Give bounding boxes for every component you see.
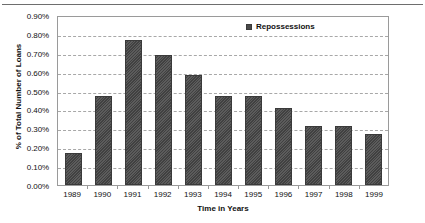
bar (335, 126, 352, 185)
x-axis-tick-label: 1995 (238, 190, 268, 202)
bar-slot (298, 17, 328, 185)
y-axis-tick-label: 0.80% (27, 30, 49, 39)
legend-swatch-icon (246, 24, 252, 30)
y-axis-tick-label: 0.00% (27, 182, 49, 191)
x-axis-tick-label: 1990 (87, 190, 117, 202)
bar-slot (358, 17, 388, 185)
repossessions-bar-chart: 0.90%0.80%0.70%0.60%0.50%0.40%0.30%0.20%… (0, 0, 425, 223)
bar (365, 134, 382, 185)
y-axis-tick-label: 0.70% (27, 49, 49, 58)
bar (65, 153, 82, 185)
y-axis-tick-label: 0.50% (27, 87, 49, 96)
x-axis-tick-label: 1992 (148, 190, 178, 202)
y-axis-tick-label: 0.10% (27, 163, 49, 172)
y-axis-tick-label: 0.30% (27, 125, 49, 134)
bar (95, 96, 112, 185)
y-axis-tick-label: 0.90% (27, 12, 49, 21)
x-axis-tick (178, 186, 179, 189)
x-axis-tick (117, 186, 118, 189)
plot-area (57, 16, 389, 186)
x-axis-tick-label: 1998 (329, 190, 359, 202)
bar-slot (148, 17, 178, 185)
x-axis-tick (329, 186, 330, 189)
x-axis-tick-label: 1994 (208, 190, 238, 202)
x-axis-tick (87, 186, 88, 189)
x-axis-tick (298, 186, 299, 189)
bar (125, 40, 142, 185)
bar-slot (328, 17, 358, 185)
bar (305, 126, 322, 185)
y-axis-tick-label: 0.60% (27, 68, 49, 77)
x-axis-tick-label: 1997 (299, 190, 329, 202)
bar-slot (178, 17, 208, 185)
bar-slot (268, 17, 298, 185)
legend-item-label: Repossessions (256, 22, 315, 31)
x-axis-tick (208, 186, 209, 189)
x-axis-tick-label: 1993 (178, 190, 208, 202)
bar-series-repossessions (58, 17, 388, 185)
bar (185, 75, 202, 185)
y-axis-tick-label: 0.20% (27, 144, 49, 153)
x-axis-tick-labels: 1989199019911992199319941995199619971998… (57, 190, 389, 202)
bar-slot (238, 17, 268, 185)
x-axis-tick (238, 186, 239, 189)
x-axis-tick (359, 186, 360, 189)
x-axis-tick-label: 1989 (57, 190, 87, 202)
bar (215, 96, 232, 185)
bar (275, 108, 292, 185)
bar (245, 96, 262, 185)
bar-slot (58, 17, 88, 185)
x-axis-tick (148, 186, 149, 189)
bar-slot (118, 17, 148, 185)
figure-top-rule (2, 4, 423, 5)
x-axis-tick-label: 1999 (359, 190, 389, 202)
bar (155, 55, 172, 185)
x-axis-tick (268, 186, 269, 189)
x-axis-title: Time in Years (57, 204, 389, 213)
x-axis-tick-label: 1991 (117, 190, 147, 202)
y-axis-tick-labels: 0.90%0.80%0.70%0.60%0.50%0.40%0.30%0.20%… (0, 16, 54, 186)
y-axis-tick-label: 0.40% (27, 106, 49, 115)
y-axis-title: % of Total Number of Loans (14, 22, 23, 172)
bar-slot (208, 17, 238, 185)
bar-slot (88, 17, 118, 185)
chart-legend: Repossessions (246, 22, 315, 31)
x-axis-tick-label: 1996 (268, 190, 298, 202)
